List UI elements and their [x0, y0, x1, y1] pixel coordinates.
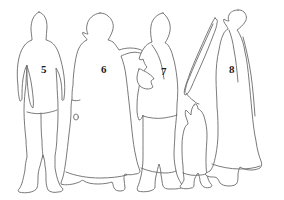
figure-6-outline	[61, 13, 145, 191]
staff-lower-shaft	[186, 93, 199, 104]
figure-7-group	[137, 13, 182, 192]
figure-6-group	[61, 13, 145, 191]
staff-object-outline	[184, 18, 217, 95]
figure-label-5: 5	[41, 64, 47, 75]
figure-outline-plate: 5 6 7 8	[0, 0, 284, 200]
figure-outlines-drawing	[0, 0, 284, 200]
figure-label-8: 8	[229, 64, 235, 75]
figure-5-outline	[17, 12, 65, 193]
figure-label-6: 6	[101, 64, 107, 75]
figure-7-outline	[137, 13, 182, 192]
figure-label-7: 7	[161, 66, 167, 77]
staff-object-group	[184, 18, 217, 104]
figure-8-group	[205, 10, 262, 186]
figure-5-group	[17, 12, 65, 193]
